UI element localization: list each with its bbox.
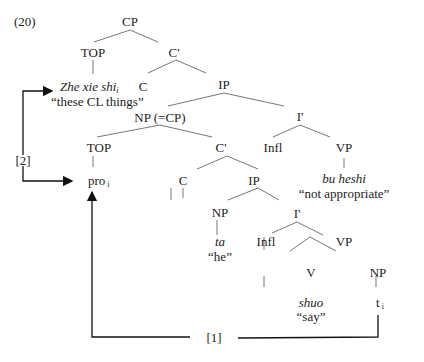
- node-c: C: [139, 79, 148, 94]
- arrow-label-1: [1]: [206, 330, 221, 345]
- trace: ti: [376, 295, 385, 311]
- node-np-object: NP: [370, 265, 387, 280]
- arrow-label-2: [2]: [15, 153, 30, 168]
- vp-gloss: “not appropriate”: [299, 186, 390, 201]
- subject-chinese: ta: [215, 234, 226, 249]
- example-number: (20): [14, 14, 36, 29]
- node-c-embedded: C: [179, 173, 188, 188]
- verb-gloss: “say”: [297, 309, 326, 324]
- node-i-bar: I': [297, 109, 304, 124]
- node-i-bar-embedded: I': [294, 206, 301, 221]
- topic-chinese: Zhe xie shii: [60, 79, 119, 95]
- subject-gloss: “he”: [208, 249, 232, 264]
- topic-gloss: “these CL things”: [51, 94, 144, 109]
- tree-branches: [93, 30, 376, 287]
- node-vp: VP: [336, 140, 353, 155]
- node-top: TOP: [81, 45, 105, 60]
- node-c-bar-embedded: C': [215, 140, 226, 155]
- node-v: V: [306, 265, 316, 280]
- node-infl-embedded: Infl: [257, 234, 276, 249]
- node-np-cp: NP (=CP): [134, 110, 185, 125]
- node-ip-embedded: IP: [248, 173, 260, 188]
- node-vp-embedded: VP: [336, 234, 353, 249]
- node-pro: proi: [88, 173, 110, 189]
- node-np-subject: NP: [212, 205, 229, 220]
- node-infl: Infl: [264, 140, 283, 155]
- node-c-bar: C': [168, 45, 179, 60]
- movement-arrow-1: [1]: [92, 192, 378, 345]
- vp-chinese: bu heshi: [322, 171, 366, 186]
- node-cp: CP: [122, 14, 138, 29]
- node-top-embedded: TOP: [87, 140, 111, 155]
- node-ip: IP: [218, 77, 230, 92]
- syntax-tree-diagram: (20) CP TOP C' Zhe xie shii “these: [0, 0, 424, 362]
- verb-chinese: shuo: [299, 295, 324, 310]
